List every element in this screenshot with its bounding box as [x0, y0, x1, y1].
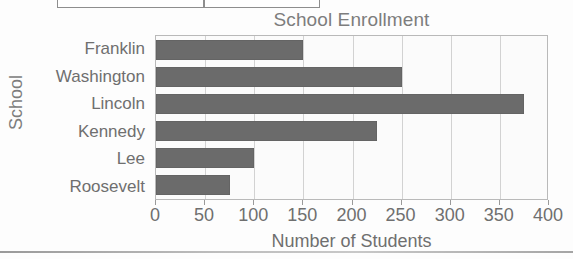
page-horizontal-rule [0, 251, 573, 253]
x-axis-tick-label: 300 [435, 206, 465, 224]
scanned-page: School Enrollment School FranklinWashing… [0, 0, 573, 259]
bar-row [156, 90, 547, 117]
x-axis-title: Number of Students [155, 231, 548, 252]
y-axis-tick-label: Kennedy [20, 118, 151, 146]
x-axis-tick-label: 100 [238, 206, 268, 224]
plot-area [155, 35, 548, 200]
y-axis-tick-labels: FranklinWashingtonLincolnKennedyLeeRoose… [20, 35, 151, 200]
bar-series [156, 36, 547, 199]
x-axis-tick-label: 150 [287, 206, 317, 224]
y-axis-tick-label: Franklin [20, 35, 151, 63]
x-axis-tick-label: 350 [484, 206, 514, 224]
y-axis-tick-label: Lincoln [20, 90, 151, 118]
bar [156, 94, 524, 114]
bar [156, 121, 377, 141]
bar-row [156, 172, 547, 199]
bar-row [156, 145, 547, 172]
y-axis-tick-label: Roosevelt [20, 173, 151, 201]
bar-chart: School Enrollment School FranklinWashing… [0, 0, 573, 259]
y-axis-tick-label: Lee [20, 145, 151, 173]
x-axis-tick-label: 400 [533, 206, 563, 224]
x-axis-ticks: 050100150200250300350400 [155, 200, 548, 206]
y-axis-tick-label: Washington [20, 63, 151, 91]
bar [156, 175, 230, 195]
chart-title: School Enrollment [155, 9, 548, 31]
x-axis-tick-label: 250 [386, 206, 416, 224]
bar-row [156, 118, 547, 145]
x-axis-tick-label: 200 [336, 206, 366, 224]
bar [156, 67, 402, 87]
bar [156, 40, 303, 60]
x-axis-tick-label: 0 [150, 206, 160, 224]
bar-row [156, 63, 547, 90]
bar-row [156, 36, 547, 63]
bar [156, 148, 254, 168]
x-axis-tick-label: 50 [194, 206, 214, 224]
